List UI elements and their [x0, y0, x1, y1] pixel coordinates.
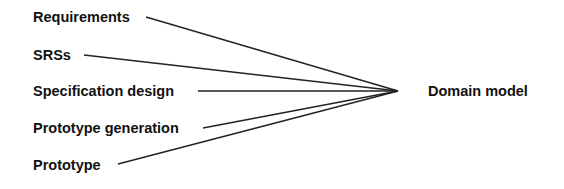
- node-specification-design: Specification design: [33, 84, 174, 99]
- edge-requirements: [146, 17, 398, 91]
- node-srss: SRSs: [33, 48, 71, 63]
- edge-prototype-generation: [203, 91, 398, 128]
- node-prototype: Prototype: [33, 158, 101, 173]
- node-requirements: Requirements: [33, 10, 130, 25]
- node-prototype-generation: Prototype generation: [33, 121, 179, 136]
- diagram-canvas: Requirements SRSs Specification design P…: [0, 0, 564, 189]
- node-domain-model: Domain model: [428, 84, 528, 99]
